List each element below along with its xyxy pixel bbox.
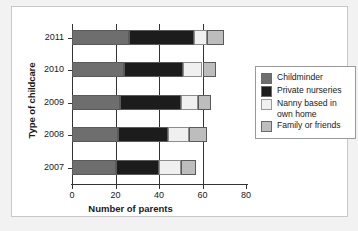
bar-segment: [168, 127, 190, 142]
x-axis-tick-label: 20: [101, 190, 131, 200]
bar-segment: [72, 62, 124, 77]
bar-segment: [72, 160, 116, 175]
x-axis-tick-label: 80: [231, 190, 261, 200]
bar-segment: [72, 127, 118, 142]
legend-swatch: [261, 121, 272, 132]
figure-frame: Type of childcare Number of parents 0204…: [11, 6, 348, 217]
bar-segment: [198, 95, 211, 110]
x-axis-title: Number of parents: [38, 203, 223, 214]
legend-swatch: [261, 86, 272, 97]
y-axis-tick-label: 2008: [20, 129, 64, 139]
bar-segment: [124, 62, 183, 77]
legend-item: Childminder: [261, 72, 350, 84]
bar-segment: [159, 160, 181, 175]
bar-segment: [183, 62, 203, 77]
legend-item: Family or friends: [261, 120, 350, 132]
x-axis-tick: [159, 185, 160, 189]
legend-swatch: [261, 99, 272, 110]
x-axis-tick-label: 60: [188, 190, 218, 200]
bar-segment: [72, 30, 129, 45]
legend-item: Nanny based in own home: [261, 98, 350, 119]
legend-item: Private nurseries: [261, 85, 350, 97]
legend-label: Private nurseries: [277, 85, 341, 96]
y-axis-tick-label: 2010: [20, 64, 64, 74]
legend-label: Childminder: [277, 72, 323, 83]
bar-segment: [181, 95, 198, 110]
bar-segment: [207, 30, 224, 45]
x-axis-tick: [246, 185, 247, 189]
x-axis-tick-label: 0: [57, 190, 87, 200]
x-axis-tick-label: 40: [144, 190, 174, 200]
x-axis-tick: [72, 185, 73, 189]
bar-segment: [189, 127, 206, 142]
x-axis-tick: [203, 185, 204, 189]
y-axis-tick-label: 2009: [20, 97, 64, 107]
y-axis-tick-label: 2011: [20, 32, 64, 42]
bar-segment: [116, 160, 160, 175]
bar-segment: [203, 62, 216, 77]
chart-figure: Type of childcare Number of parents 0204…: [0, 0, 358, 231]
chart-legend: ChildminderPrivate nurseriesNanny based …: [255, 66, 356, 139]
bar-segment: [120, 95, 181, 110]
bar-segment: [194, 30, 207, 45]
bar-segment: [129, 30, 194, 45]
legend-label: Nanny based in own home: [277, 98, 337, 119]
legend-label: Family or friends: [277, 120, 341, 131]
bar-segment: [118, 127, 168, 142]
y-axis-tick-label: 2007: [20, 162, 64, 172]
legend-swatch: [261, 73, 272, 84]
x-axis-tick: [116, 185, 117, 189]
bar-segment: [181, 160, 196, 175]
plot-area: [72, 26, 246, 184]
bar-segment: [72, 95, 120, 110]
